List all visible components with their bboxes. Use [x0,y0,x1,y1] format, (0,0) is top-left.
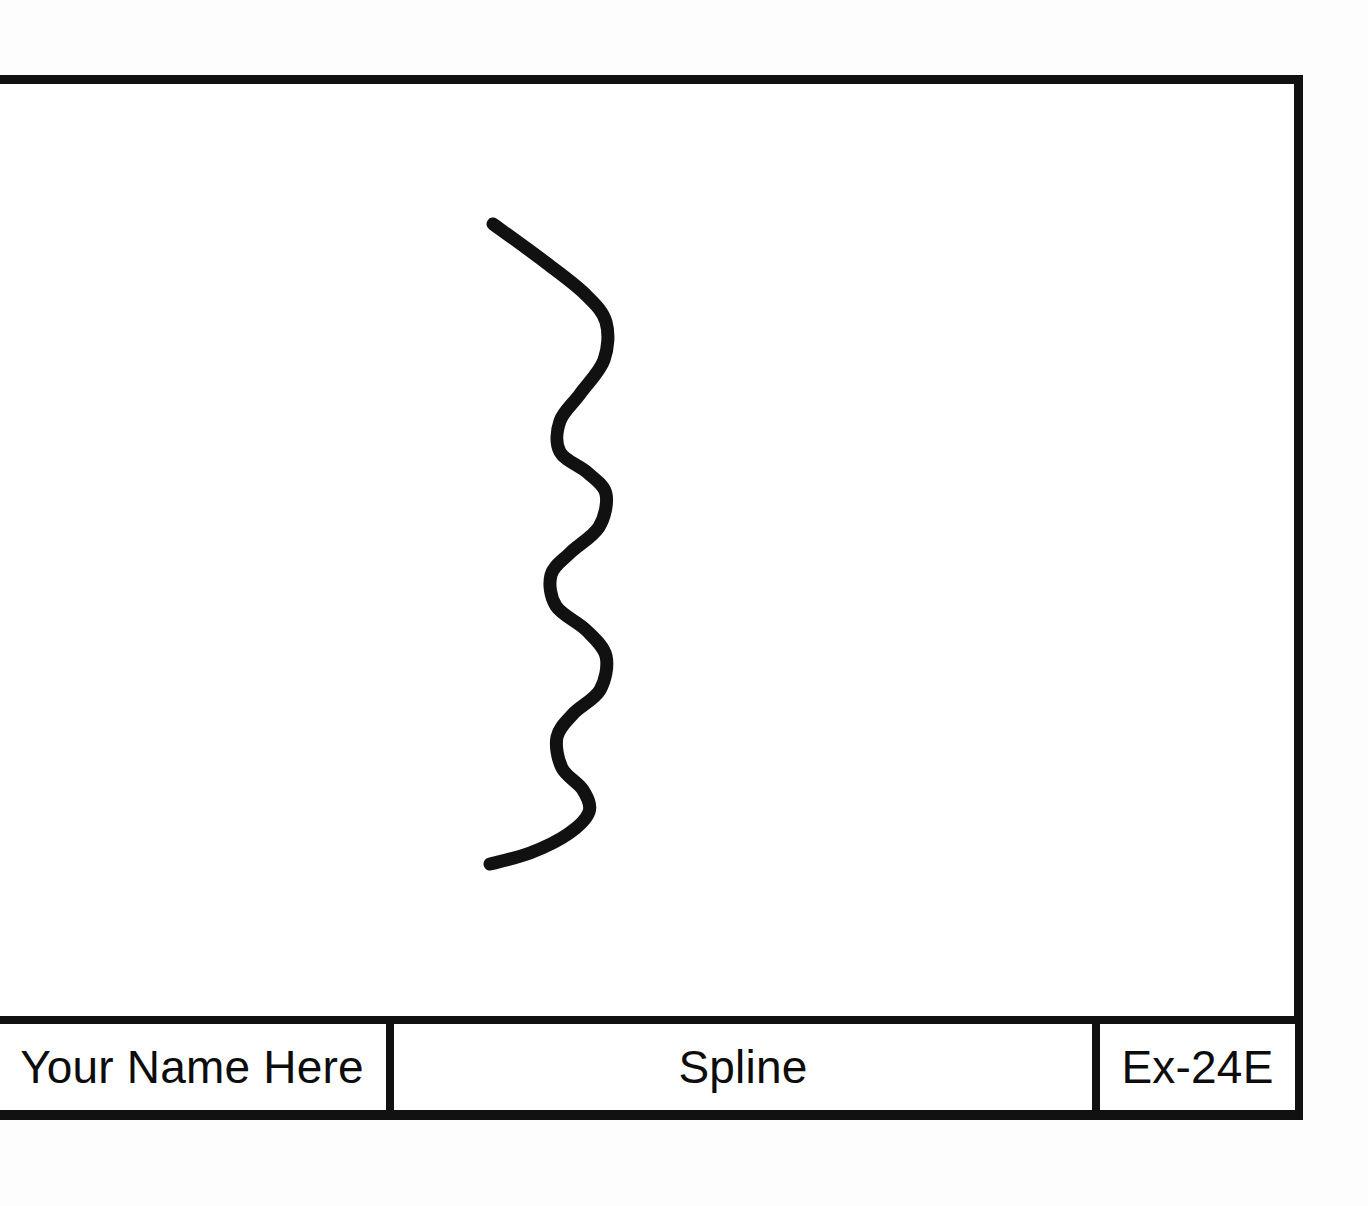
title-block-drawn-by[interactable]: Your Name Here [0,1024,386,1110]
drawing-border [0,75,1303,1120]
title-block: Your Name Here Spline Ex-24E [0,1016,1303,1118]
drawing-sheet: Your Name Here Spline Ex-24E [0,0,1368,1206]
title-block-drawing-number[interactable]: Ex-24E [1100,1024,1295,1110]
title-block-drawing-title[interactable]: Spline [386,1024,1100,1110]
